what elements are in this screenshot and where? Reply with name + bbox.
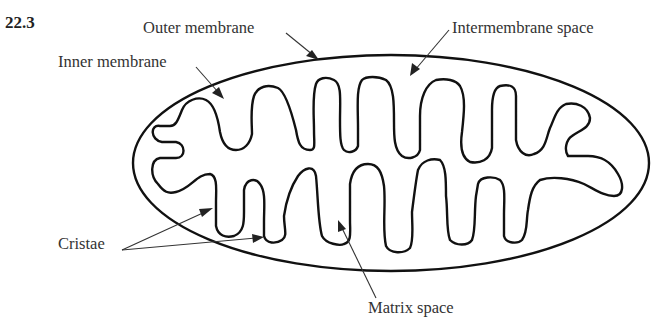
arrowhead-inner-membrane (212, 87, 224, 99)
arrowhead-cristae-2 (252, 234, 264, 243)
arrowhead-matrix-space (338, 220, 346, 232)
arrowhead-intermembrane-space (410, 63, 420, 76)
leader-intermembrane-space (415, 30, 449, 70)
leader-outer-membrane (286, 33, 313, 55)
arrowhead-cristae-1 (199, 208, 213, 217)
leader-matrix-space (342, 228, 376, 298)
mitochondrion-diagram (0, 0, 657, 321)
inner-membrane (152, 77, 622, 252)
